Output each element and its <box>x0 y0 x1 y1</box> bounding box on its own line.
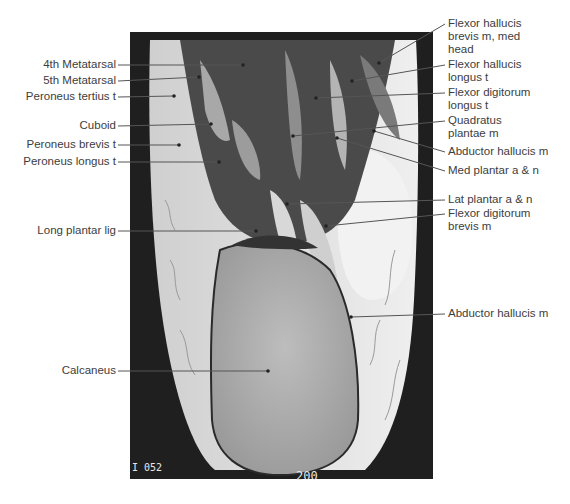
label-flexor-digitorum-brevis-m: Flexor digitorumbrevis m <box>448 207 530 233</box>
label-abductor-hallucis-m: Abductor hallucis m <box>448 145 548 158</box>
label-lat-plantar-a-n: Lat plantar a & n <box>448 193 532 206</box>
label-long-plantar-lig: Long plantar lig <box>37 224 116 237</box>
annotated-mri-figure: I 052 200 4th Metatarsal5th MetatarsalPe… <box>0 0 570 504</box>
label-flexor-hallucis-longus-t: Flexor hallucislongus t <box>448 58 522 84</box>
label-cuboid: Cuboid <box>80 119 116 132</box>
label-abductor-hallucis-m: Abductor hallucis m <box>448 307 548 320</box>
label-peroneus-longus-t: Peroneus longus t <box>23 155 116 168</box>
mri-code-right: 200 <box>296 469 318 483</box>
mri-code-left: I 052 <box>132 462 162 473</box>
label-med-plantar-a-n: Med plantar a & n <box>448 164 539 177</box>
label-4th-metatarsal: 4th Metatarsal <box>43 58 116 71</box>
label-flexor-hallucis-brevis-m-med-head: Flexor hallucisbrevis m, medhead <box>448 17 522 56</box>
label-peroneus-brevis-t: Peroneus brevis t <box>27 138 117 151</box>
label-calcaneus: Calcaneus <box>62 364 116 377</box>
label-peroneus-tertius-t: Peroneus tertius t <box>26 90 116 103</box>
label-quadratus-plantae-m: Quadratusplantae m <box>448 114 502 140</box>
label-5th-metatarsal: 5th Metatarsal <box>43 74 116 87</box>
label-flexor-digitorum-longus-t: Flexor digitorumlongus t <box>448 86 530 112</box>
